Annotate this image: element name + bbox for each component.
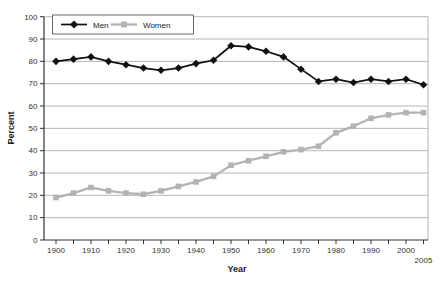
- x-last-tick-label: 2005: [415, 256, 433, 265]
- y-tick-label: 40: [29, 146, 38, 155]
- y-tick-label: 70: [29, 79, 38, 88]
- men-marker: [262, 48, 270, 56]
- women-marker: [53, 195, 59, 201]
- legend-women-label: Women: [143, 21, 170, 30]
- y-tick-label: 80: [29, 57, 38, 66]
- legend-women-square-icon: [121, 22, 127, 28]
- women-marker: [351, 123, 357, 129]
- men-marker: [367, 75, 375, 83]
- women-marker: [211, 174, 217, 180]
- y-tick-label: 30: [29, 169, 38, 178]
- x-tick-label: 1960: [257, 246, 275, 255]
- y-tick-label: 60: [29, 102, 38, 111]
- women-marker: [333, 130, 339, 136]
- women-marker: [246, 158, 252, 164]
- x-axis-title: Year: [227, 264, 247, 274]
- men-marker: [87, 53, 95, 61]
- women-marker: [141, 191, 147, 197]
- women-marker: [176, 184, 182, 190]
- y-tick-label: 10: [29, 213, 38, 222]
- y-tick-label: 20: [29, 191, 38, 200]
- y-axis-title: Percent: [6, 111, 16, 144]
- women-marker: [386, 112, 392, 118]
- women-marker: [228, 162, 234, 168]
- women-marker: [71, 190, 77, 196]
- men-marker: [402, 75, 410, 83]
- line-chart-figure: 0102030405060708090100190019101920193019…: [0, 0, 446, 291]
- x-tick-label: 1970: [292, 246, 310, 255]
- women-marker: [263, 153, 269, 159]
- x-tick-label: 2000: [397, 246, 415, 255]
- men-marker: [192, 60, 200, 68]
- women-marker: [158, 188, 164, 194]
- women-marker: [421, 110, 427, 116]
- women-marker: [298, 147, 304, 153]
- men-marker: [245, 43, 253, 51]
- women-marker: [316, 143, 322, 149]
- men-marker: [350, 79, 358, 87]
- men-marker: [105, 58, 113, 66]
- women-marker: [193, 179, 199, 185]
- axes: [40, 17, 428, 244]
- men-marker: [122, 61, 130, 69]
- x-tick-label: 1930: [152, 246, 170, 255]
- men-marker: [70, 55, 78, 63]
- tick-labels: 0102030405060708090100190019101920193019…: [24, 13, 433, 266]
- women-marker: [403, 110, 409, 116]
- men-marker: [420, 81, 428, 89]
- x-tick-label: 1900: [47, 246, 65, 255]
- x-tick-label: 1940: [187, 246, 205, 255]
- women-marker: [88, 185, 94, 191]
- x-tick-label: 1990: [362, 246, 380, 255]
- x-tick-label: 1920: [117, 246, 135, 255]
- x-tick-label: 1910: [82, 246, 100, 255]
- y-tick-label: 0: [33, 236, 38, 245]
- y-tick-label: 100: [24, 13, 38, 22]
- men-marker: [140, 64, 148, 72]
- y-tick-label: 50: [29, 124, 38, 133]
- participation-rate-chart: 0102030405060708090100190019101920193019…: [0, 0, 446, 291]
- women-marker: [106, 188, 112, 194]
- gridlines: [44, 17, 428, 240]
- legend-men-label: Men: [93, 21, 109, 30]
- men-marker: [332, 75, 340, 83]
- men-marker: [52, 58, 60, 66]
- men-marker: [157, 66, 165, 74]
- women-marker: [123, 190, 129, 196]
- men-marker: [385, 78, 393, 86]
- legend: Men Women: [53, 15, 194, 34]
- men-marker: [175, 64, 183, 72]
- women-line: [56, 113, 424, 198]
- data-series: [52, 42, 427, 200]
- x-tick-label: 1950: [222, 246, 240, 255]
- women-marker: [368, 116, 374, 122]
- y-tick-label: 90: [29, 35, 38, 44]
- x-tick-label: 1980: [327, 246, 345, 255]
- women-marker: [281, 149, 287, 155]
